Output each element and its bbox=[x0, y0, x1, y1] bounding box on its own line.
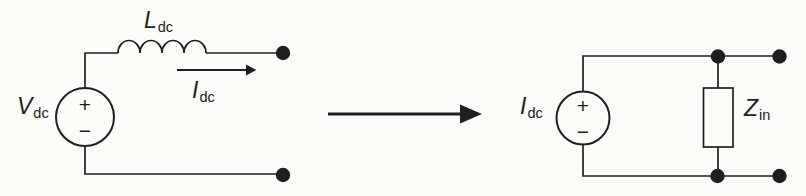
current-label-left: Idc bbox=[192, 77, 215, 103]
inductor-label: Ldc bbox=[144, 7, 173, 33]
right-terminal-dot-top bbox=[772, 49, 786, 63]
inductor-label-base: L bbox=[144, 7, 157, 33]
current-source-label-base: I bbox=[520, 93, 526, 119]
inductor-label-sub: dc bbox=[158, 19, 173, 35]
impedance-box bbox=[704, 88, 734, 147]
left-terminal-dot-bottom bbox=[276, 168, 290, 182]
current-source-label-sub: dc bbox=[527, 105, 542, 121]
right-terminal-dot-bottom bbox=[772, 169, 786, 183]
circuit-diagram bbox=[0, 0, 806, 196]
current-source-label: Idc bbox=[520, 93, 543, 119]
left-terminal-dot-top bbox=[276, 46, 290, 60]
left-source-minus-sign: − bbox=[79, 120, 91, 141]
right-node-dot-bottom bbox=[710, 169, 724, 183]
current-arrow-head bbox=[246, 65, 257, 76]
voltage-source-label-base: V bbox=[17, 93, 32, 119]
source-transformation-figure: Ldc Idc Vdc + − Idc + − Zin bbox=[0, 0, 806, 196]
right-top-wire bbox=[583, 56, 779, 92]
voltage-source-label-sub: dc bbox=[33, 105, 48, 121]
impedance-label: Zin bbox=[744, 95, 770, 121]
current-label-left-sub: dc bbox=[199, 89, 214, 105]
right-bottom-wire bbox=[583, 145, 779, 177]
impedance-label-base: Z bbox=[744, 95, 758, 121]
right-source-minus-sign: − bbox=[577, 121, 589, 142]
transform-arrow bbox=[328, 105, 482, 124]
voltage-source-label: Vdc bbox=[17, 93, 49, 119]
current-label-left-base: I bbox=[192, 77, 198, 103]
arrow-right-head bbox=[460, 105, 482, 124]
right-source-plus-sign: + bbox=[577, 95, 589, 116]
left-top-lead-wire bbox=[85, 53, 118, 88]
inductor-coil bbox=[118, 40, 206, 53]
left-bottom-wire bbox=[85, 146, 281, 174]
impedance-label-sub: in bbox=[759, 107, 770, 123]
left-source-plus-sign: + bbox=[79, 94, 91, 115]
